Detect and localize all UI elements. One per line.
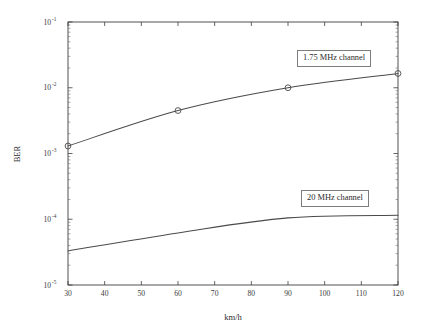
svg-text:60: 60 <box>174 289 182 298</box>
x-axis-title: km/h <box>224 312 242 322</box>
x-axis-tick-labels: 30405060708090100110120 <box>64 289 404 298</box>
y-axis-tick-labels: 10-510-410-310-210-1 <box>43 16 56 290</box>
svg-text:90: 90 <box>284 289 292 298</box>
svg-text:50: 50 <box>138 289 146 298</box>
series-line <box>68 73 398 146</box>
svg-text:70: 70 <box>211 289 219 298</box>
svg-text:110: 110 <box>356 289 367 298</box>
svg-text:-5: -5 <box>52 279 57 285</box>
svg-text:10: 10 <box>43 18 51 27</box>
series-1 <box>65 71 401 149</box>
svg-text:10: 10 <box>43 83 51 92</box>
annotation-label-1-75mhz: 1.75 MHz channel <box>297 50 371 67</box>
svg-text:120: 120 <box>392 289 404 298</box>
svg-text:-4: -4 <box>52 213 57 219</box>
svg-text:80: 80 <box>248 289 256 298</box>
annotation-label-20mhz: 20 MHz channel <box>301 190 369 207</box>
chart-figure: 10-510-410-310-210-1 3040506070809010011… <box>0 0 429 330</box>
series-line <box>68 215 398 251</box>
svg-text:10: 10 <box>43 215 51 224</box>
svg-text:-2: -2 <box>52 81 57 87</box>
svg-text:-1: -1 <box>52 16 57 22</box>
data-series-group <box>65 71 401 251</box>
svg-text:10: 10 <box>43 281 51 290</box>
svg-text:40: 40 <box>101 289 109 298</box>
series-2 <box>68 215 398 251</box>
svg-text:100: 100 <box>319 289 331 298</box>
y-axis-title: BER <box>12 145 22 162</box>
svg-text:30: 30 <box>64 289 72 298</box>
svg-text:10: 10 <box>43 149 51 158</box>
svg-text:-3: -3 <box>52 147 57 153</box>
